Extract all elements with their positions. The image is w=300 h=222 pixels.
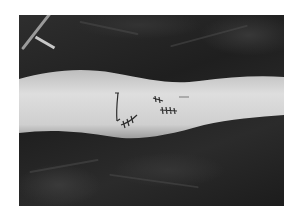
leg bbox=[19, 59, 284, 151]
photograph bbox=[19, 15, 284, 206]
